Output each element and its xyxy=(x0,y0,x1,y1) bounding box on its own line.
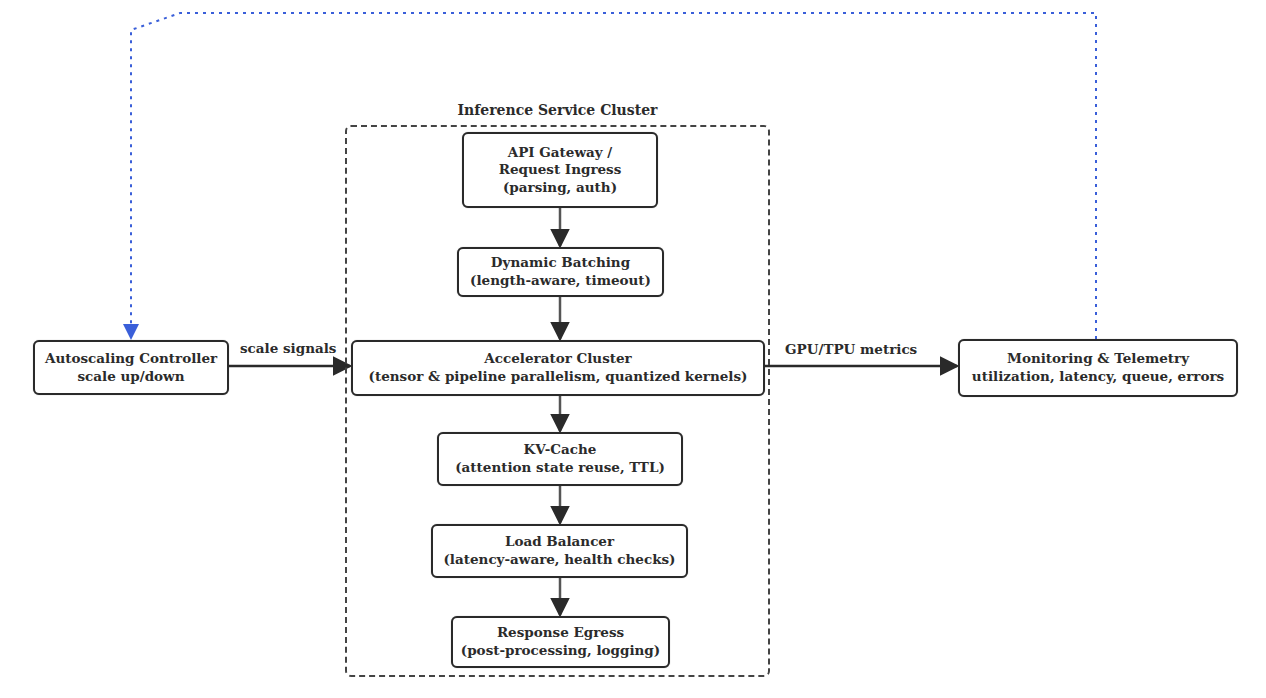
node-subtitle: Request Ingress xyxy=(499,161,622,179)
node-title: Autoscaling Controller xyxy=(45,350,217,368)
response-egress-node: Response Egress (post-processing, loggin… xyxy=(451,616,670,668)
edge-label-scale-signals: scale signals xyxy=(240,340,336,356)
node-title: Accelerator Cluster xyxy=(484,350,631,368)
node-detail: (post-processing, logging) xyxy=(461,642,660,660)
kv-cache-node: KV-Cache (attention state reuse, TTL) xyxy=(437,432,683,486)
node-detail: scale up/down xyxy=(77,368,184,386)
node-title: Dynamic Batching xyxy=(491,254,630,272)
node-detail: utilization, latency, queue, errors xyxy=(972,368,1224,386)
node-detail: (tensor & pipeline parallelism, quantize… xyxy=(369,368,748,386)
node-title: Monitoring & Telemetry xyxy=(1007,350,1189,368)
node-title: API Gateway / xyxy=(508,144,613,162)
edge-label-gpu-tpu-metrics: GPU/TPU metrics xyxy=(785,341,917,357)
node-title: Response Egress xyxy=(497,624,624,642)
node-detail: (latency-aware, health checks) xyxy=(443,551,675,569)
node-detail: (length-aware, timeout) xyxy=(470,272,651,290)
node-detail: (attention state reuse, TTL) xyxy=(455,459,665,477)
monitoring-telemetry-node: Monitoring & Telemetry utilization, late… xyxy=(958,339,1238,397)
api-gateway-node: API Gateway / Request Ingress (parsing, … xyxy=(462,132,658,208)
load-balancer-node: Load Balancer (latency-aware, health che… xyxy=(431,524,688,578)
dynamic-batching-node: Dynamic Batching (length-aware, timeout) xyxy=(457,247,664,297)
cluster-title: Inference Service Cluster xyxy=(345,102,770,118)
accelerator-cluster-node: Accelerator Cluster (tensor & pipeline p… xyxy=(351,340,765,396)
node-detail: (parsing, auth) xyxy=(503,179,617,197)
node-title: KV-Cache xyxy=(524,441,597,459)
autoscaling-controller-node: Autoscaling Controller scale up/down xyxy=(33,340,229,395)
node-title: Load Balancer xyxy=(505,533,614,551)
